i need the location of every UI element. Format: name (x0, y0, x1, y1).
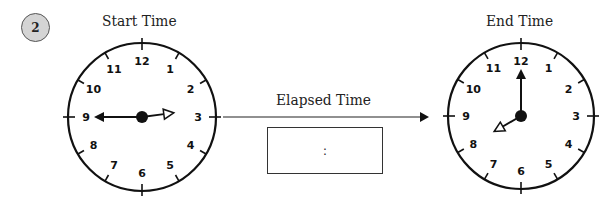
arrowhead-icon (420, 112, 429, 122)
elapsed-time-answer-box[interactable]: : (267, 127, 383, 174)
answer-colon: : (323, 143, 327, 158)
